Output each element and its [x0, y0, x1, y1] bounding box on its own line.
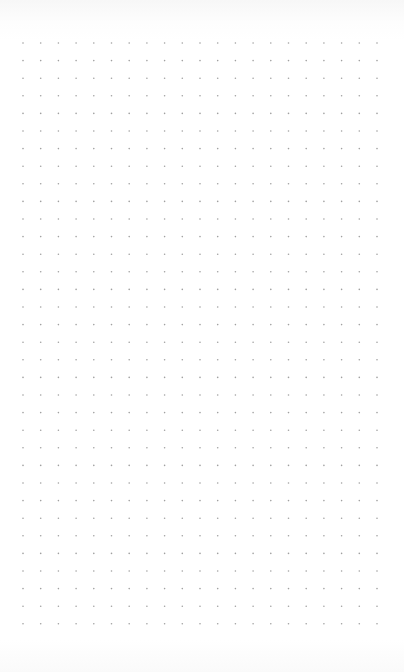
grid-dot: [376, 271, 378, 273]
grid-dot: [22, 377, 24, 379]
grid-dot: [359, 42, 361, 44]
grid-dot: [323, 535, 325, 537]
grid-dot: [22, 77, 24, 79]
dot-grid-canvas[interactable]: [0, 0, 404, 672]
grid-dot: [182, 377, 184, 379]
grid-dot: [288, 553, 290, 555]
grid-dot: [270, 377, 272, 379]
grid-dot: [323, 60, 325, 62]
grid-dot: [58, 306, 60, 308]
grid-dot: [359, 500, 361, 502]
grid-dot: [217, 341, 219, 343]
grid-dot: [323, 201, 325, 203]
grid-dot: [252, 377, 254, 379]
grid-dot: [182, 306, 184, 308]
grid-dot: [288, 429, 290, 431]
grid-dot: [164, 148, 166, 150]
grid-dot: [288, 605, 290, 607]
grid-dot: [111, 429, 113, 431]
grid-dot: [341, 42, 343, 44]
grid-dot: [146, 218, 148, 220]
grid-dot: [22, 429, 24, 431]
grid-dot: [93, 377, 95, 379]
grid-dot: [305, 201, 307, 203]
grid-dot: [288, 394, 290, 396]
grid-dot: [75, 77, 77, 79]
grid-dot: [58, 236, 60, 238]
grid-dot: [235, 517, 237, 519]
grid-dot: [182, 394, 184, 396]
grid-dot: [128, 95, 130, 97]
grid-dot: [270, 482, 272, 484]
grid-dot: [341, 588, 343, 590]
grid-dot: [58, 60, 60, 62]
grid-dot: [128, 148, 130, 150]
grid-dot: [75, 500, 77, 502]
grid-dot: [376, 429, 378, 431]
grid-dot: [146, 77, 148, 79]
grid-dot: [40, 165, 42, 167]
grid-dot: [58, 183, 60, 185]
grid-dot: [376, 60, 378, 62]
grid-dot: [359, 324, 361, 326]
grid-dot: [235, 623, 237, 625]
grid-dot: [58, 42, 60, 44]
grid-dot: [217, 306, 219, 308]
grid-dot: [182, 165, 184, 167]
grid-dot: [75, 306, 77, 308]
grid-dot: [341, 201, 343, 203]
grid-dot: [341, 394, 343, 396]
grid-dot: [199, 500, 201, 502]
grid-dot: [270, 465, 272, 467]
grid-dot: [376, 130, 378, 132]
grid-dot: [22, 623, 24, 625]
grid-dot: [288, 341, 290, 343]
grid-dot: [376, 341, 378, 343]
grid-dot: [305, 429, 307, 431]
grid-dot: [182, 341, 184, 343]
grid-dot: [305, 605, 307, 607]
grid-dot: [111, 341, 113, 343]
grid-dot: [359, 218, 361, 220]
grid-dot: [359, 623, 361, 625]
grid-dot: [199, 113, 201, 115]
grid-dot: [270, 412, 272, 414]
grid-dot: [111, 183, 113, 185]
grid-dot: [58, 605, 60, 607]
grid-dot: [111, 95, 113, 97]
grid-dot: [75, 42, 77, 44]
grid-dot: [75, 553, 77, 555]
grid-dot: [128, 500, 130, 502]
grid-dot: [288, 324, 290, 326]
grid-dot: [252, 183, 254, 185]
grid-dot: [305, 183, 307, 185]
grid-dot: [128, 218, 130, 220]
grid-dot: [164, 77, 166, 79]
grid-dot: [288, 517, 290, 519]
grid-dot: [75, 148, 77, 150]
grid-dot: [146, 623, 148, 625]
grid-dot: [217, 148, 219, 150]
grid-dot: [341, 500, 343, 502]
grid-dot: [376, 42, 378, 44]
grid-dot: [128, 306, 130, 308]
grid-dot: [182, 500, 184, 502]
grid-dot: [182, 324, 184, 326]
grid-dot: [288, 95, 290, 97]
grid-dot: [128, 447, 130, 449]
grid-dot: [93, 95, 95, 97]
grid-dot: [252, 623, 254, 625]
grid-dot: [164, 271, 166, 273]
grid-dot: [182, 570, 184, 572]
grid-dot: [75, 377, 77, 379]
grid-dot: [182, 236, 184, 238]
grid-dot: [341, 113, 343, 115]
grid-dot: [235, 324, 237, 326]
grid-dot: [146, 359, 148, 361]
grid-dot: [217, 236, 219, 238]
grid-dot: [252, 201, 254, 203]
grid-dot: [323, 236, 325, 238]
grid-dot: [288, 412, 290, 414]
grid-dot: [217, 113, 219, 115]
grid-dot: [40, 306, 42, 308]
